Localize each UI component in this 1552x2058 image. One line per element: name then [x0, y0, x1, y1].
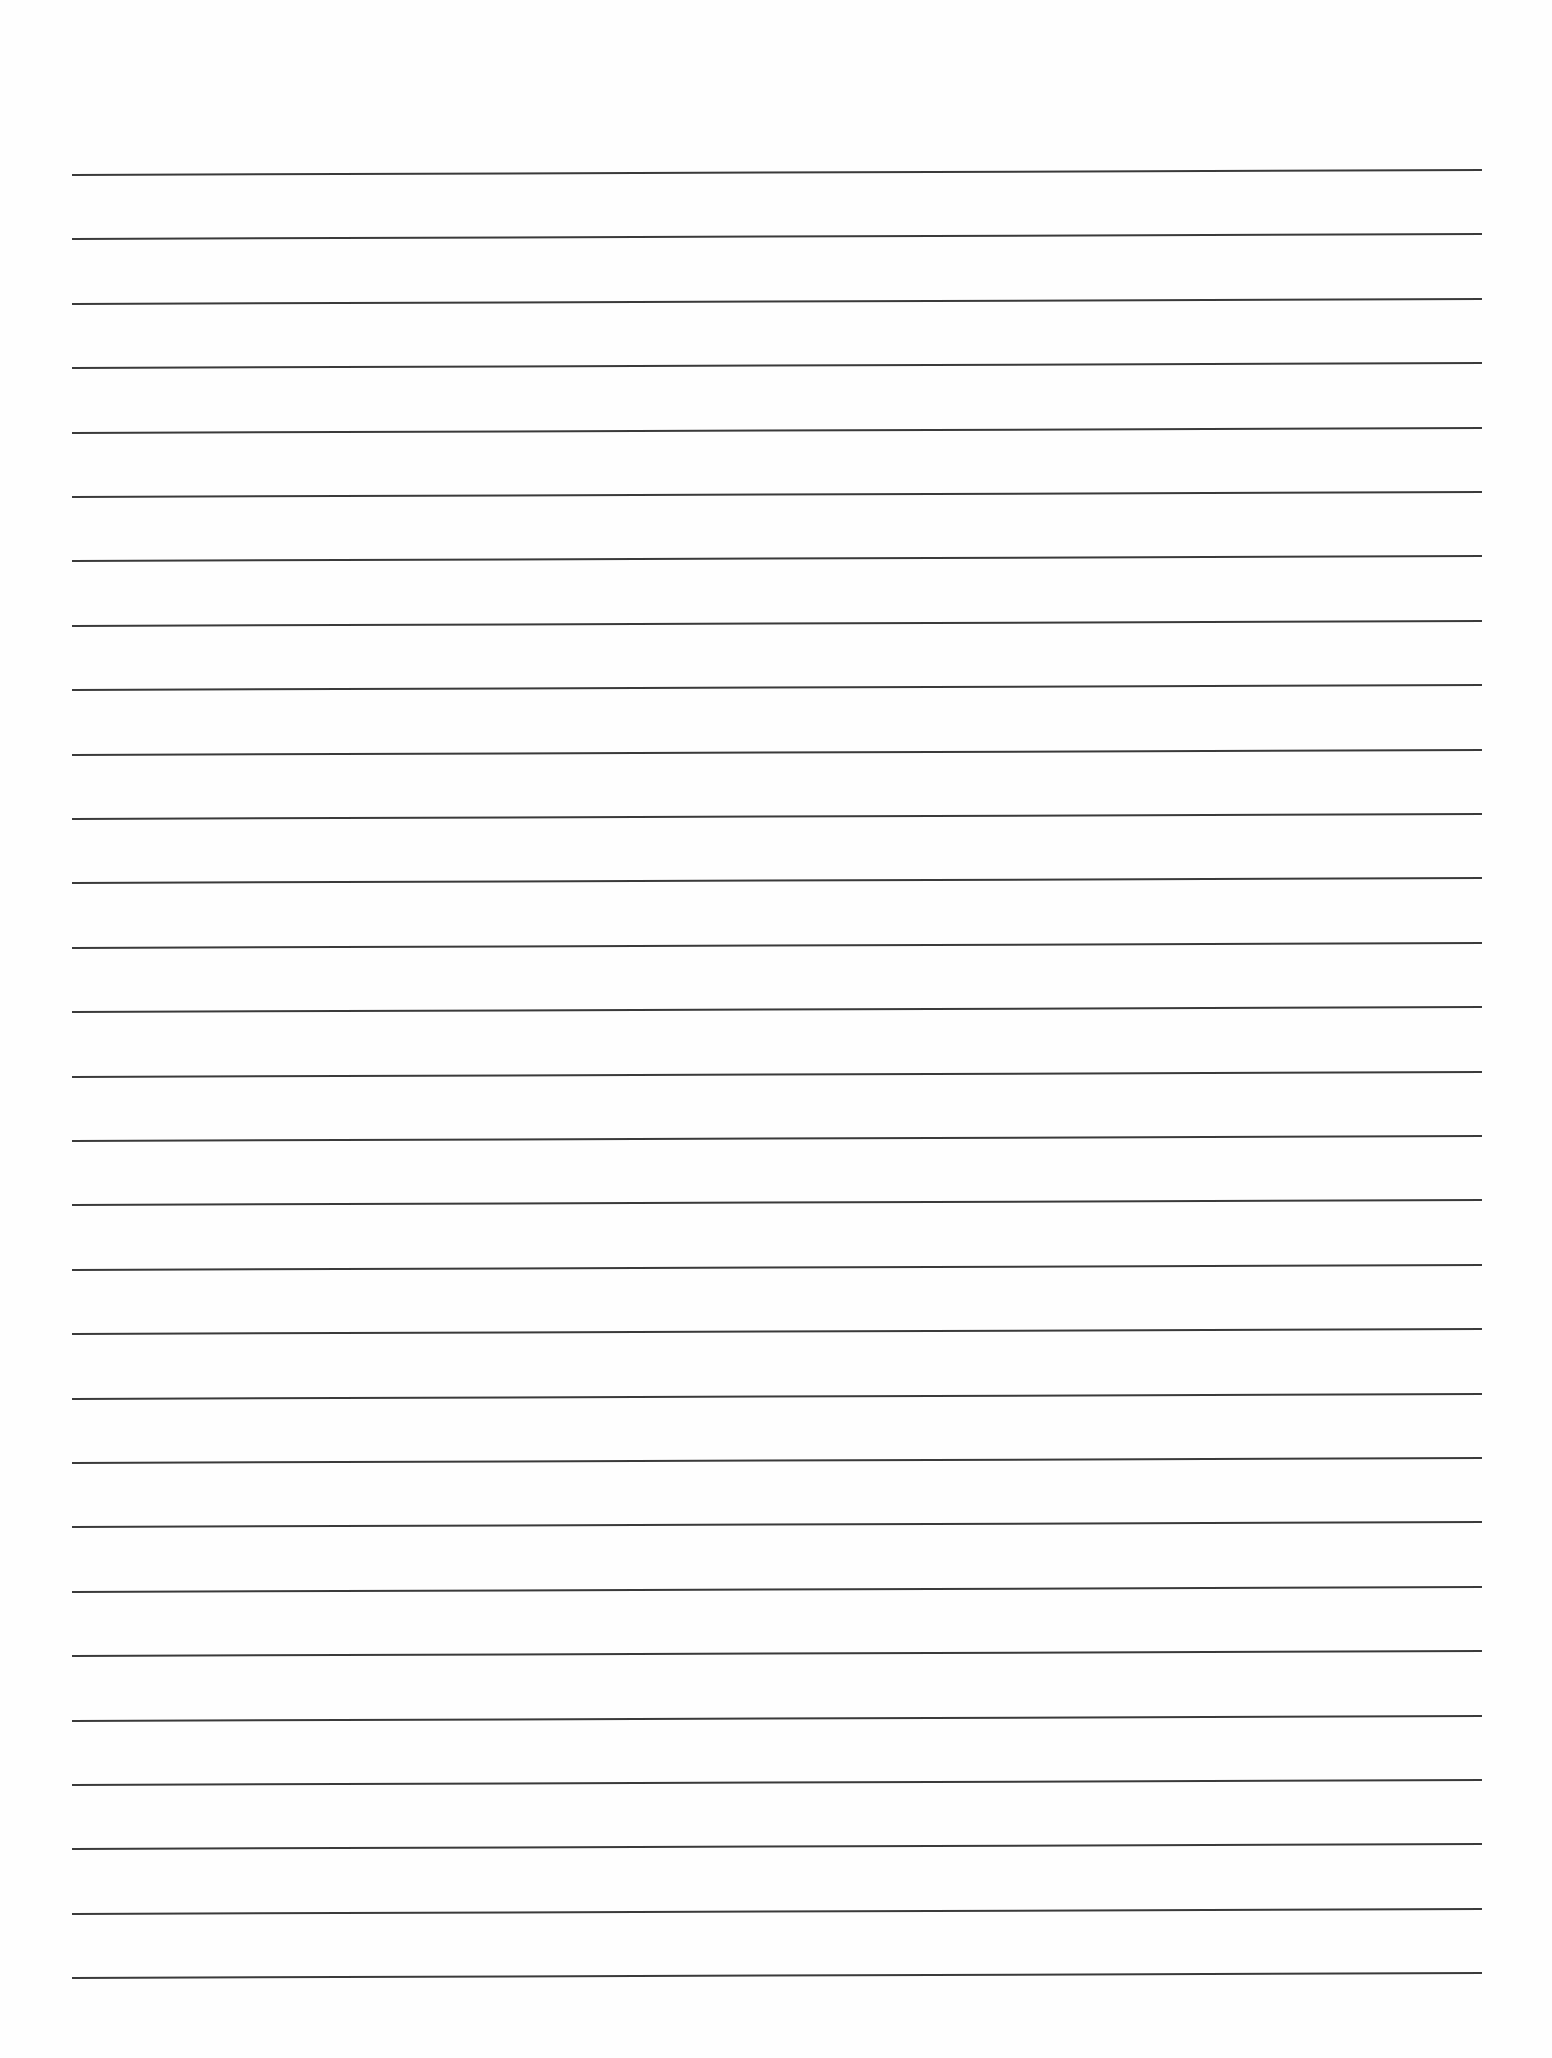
ruled-line	[72, 555, 1482, 562]
ruled-line	[72, 1199, 1482, 1206]
ruled-line	[72, 1264, 1482, 1271]
ruled-line	[72, 1521, 1482, 1528]
ruled-line	[72, 1779, 1482, 1786]
ruled-line	[72, 1135, 1482, 1142]
ruled-line	[72, 684, 1482, 691]
ruled-line	[72, 620, 1482, 627]
ruled-line	[72, 1457, 1482, 1464]
ruled-line	[72, 1650, 1482, 1657]
ruled-line	[72, 942, 1482, 949]
ruled-line	[72, 1843, 1482, 1850]
ruled-line	[72, 749, 1482, 756]
ruled-line	[72, 1071, 1482, 1078]
ruled-line	[72, 1908, 1482, 1915]
ruled-line	[72, 877, 1482, 884]
ruled-line	[72, 1715, 1482, 1722]
ruled-line	[72, 1972, 1482, 1979]
ruled-line	[72, 1006, 1482, 1013]
ruled-line	[72, 1393, 1482, 1400]
ruled-line	[72, 1328, 1482, 1335]
ruled-line	[72, 362, 1482, 369]
ruled-line	[72, 233, 1482, 240]
ruled-line	[72, 491, 1482, 498]
ruled-line	[72, 169, 1482, 176]
ruled-line	[72, 427, 1482, 434]
ruled-line	[72, 298, 1482, 305]
lined-paper-page	[0, 0, 1552, 2058]
ruled-line	[72, 1586, 1482, 1593]
ruled-line	[72, 813, 1482, 820]
